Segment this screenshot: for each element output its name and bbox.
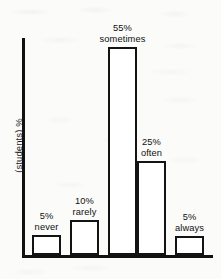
bar-sometimes	[108, 47, 137, 255]
bar-category-never: never	[35, 222, 59, 233]
bar-label-always: 5% always	[175, 212, 204, 234]
bar-category-always: always	[175, 223, 204, 234]
bar-label-never: 5% never	[35, 211, 59, 233]
bar-category-often: often	[141, 148, 162, 159]
x-axis-line	[22, 255, 213, 258]
bar-always	[175, 236, 204, 255]
bar-value-always: 5%	[175, 212, 204, 223]
bar-never	[32, 235, 61, 255]
plot-area: 5% never 10% rarely 55% sometimes 25%	[25, 38, 213, 255]
bar-label-rarely: 10% rarely	[73, 196, 97, 218]
bar-value-often: 25%	[141, 137, 162, 148]
bar-group-always: 5% always	[175, 38, 204, 255]
bar-value-rarely: 10%	[73, 196, 97, 207]
y-axis-title: (students) %	[13, 101, 24, 191]
bar-rarely	[70, 220, 99, 255]
bar-value-sometimes: 55%	[100, 23, 146, 34]
bar-group-never: 5% never	[32, 38, 61, 255]
bar-label-often: 25% often	[141, 137, 162, 159]
bar-value-never: 5%	[35, 211, 59, 222]
bar-often	[137, 161, 166, 255]
bar-chart-figure: (students) % 5% never 10% rarely 55% som…	[0, 0, 221, 279]
bar-group-sometimes: 55% sometimes	[108, 38, 137, 255]
bar-group-often: 25% often	[137, 38, 166, 255]
bar-category-rarely: rarely	[73, 207, 97, 218]
bar-group-rarely: 10% rarely	[70, 38, 99, 255]
